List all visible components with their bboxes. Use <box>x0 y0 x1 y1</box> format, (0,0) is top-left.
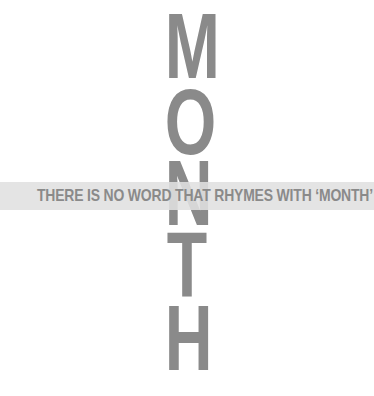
letter-h: H <box>165 292 210 384</box>
caption-text: THERE IS NO WORD THAT RHYMES WITH ‘MONTH… <box>37 182 373 210</box>
caption-text-row: THERE IS NO WORD THAT RHYMES WITH ‘MONTH… <box>0 182 374 210</box>
